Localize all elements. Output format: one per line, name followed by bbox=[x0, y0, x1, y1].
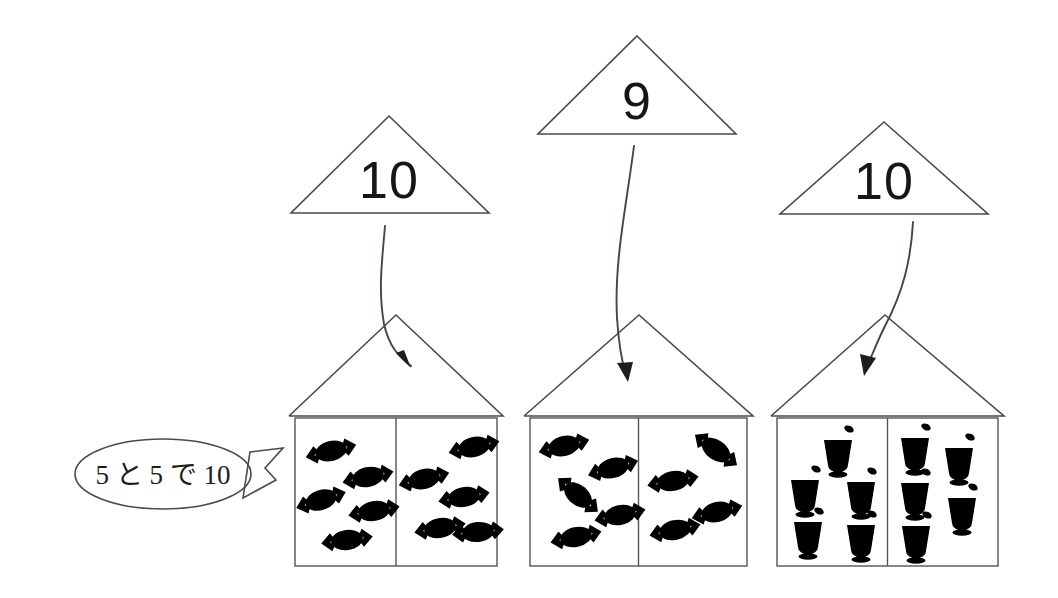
group-1-left-item-1 bbox=[303, 435, 358, 467]
group-1-house-roof bbox=[289, 315, 503, 416]
group-3-right-item-2 bbox=[945, 432, 976, 486]
group-3: 10 #group-3 .c-body { fill: #e6eae6; str… bbox=[771, 122, 1004, 566]
candy-wrapped-dotted-icon bbox=[303, 435, 358, 467]
candy-wrapped-dotted-icon bbox=[340, 462, 395, 492]
group-2-right-item-2 bbox=[646, 467, 701, 496]
group-1-right-item-1 bbox=[446, 431, 501, 462]
pudding-glass-icon bbox=[948, 482, 979, 536]
speech-bubble-text: 5 と 5 で 10 bbox=[96, 460, 231, 490]
group-3-total-label: 10 bbox=[854, 152, 914, 210]
group-1-arrow-line bbox=[381, 226, 411, 366]
group-1-total-label: 10 bbox=[359, 151, 419, 209]
worksheet-canvas: 10 #group-1 .c-body { fill: #e8ded0; str… bbox=[0, 0, 1058, 598]
group-1-left-item-4 bbox=[347, 497, 402, 526]
candy-striped-icon bbox=[646, 467, 701, 496]
group-3-left-item-1 bbox=[824, 424, 855, 478]
candy-wrapped-dotted-icon bbox=[320, 526, 374, 553]
group-1-left-item-3 bbox=[293, 482, 349, 517]
group-3-house-roof bbox=[771, 315, 1004, 416]
candy-striped-icon bbox=[548, 522, 603, 552]
speech-bubble-tail bbox=[243, 448, 283, 498]
group-2-left-item-4 bbox=[592, 500, 647, 530]
group-2-total-label: 9 bbox=[622, 72, 652, 130]
candy-wrapped-dotted-icon bbox=[347, 497, 402, 526]
group-2-left-item-5 bbox=[548, 522, 603, 552]
group-1-right-item-3 bbox=[437, 483, 492, 512]
group-1: 10 #group-1 .c-body { fill: #e8ded0; str… bbox=[289, 116, 505, 566]
pudding-glass-icon bbox=[824, 424, 855, 478]
candy-wrapped-dotted-icon bbox=[446, 431, 501, 462]
group-3-right-item-4 bbox=[948, 482, 979, 536]
group-1-right-item-2 bbox=[396, 463, 451, 495]
candy-striped-icon bbox=[585, 451, 640, 485]
candy-striped-icon bbox=[536, 430, 591, 462]
group-2-right-item-1 bbox=[689, 427, 743, 474]
group-2-house-roof bbox=[524, 315, 753, 416]
group-1-left-item-5 bbox=[320, 526, 374, 553]
pudding-glass-icon bbox=[945, 432, 976, 486]
candy-wrapped-dotted-icon bbox=[437, 483, 492, 512]
group-3-arrow-line bbox=[866, 222, 913, 368]
group-2-left-item-1 bbox=[536, 430, 591, 462]
pudding-glass-icon bbox=[901, 422, 932, 476]
group-3-arrow-head bbox=[860, 354, 876, 376]
group-1-left-item-2 bbox=[340, 462, 395, 492]
group-1-arrow-head bbox=[396, 350, 411, 368]
speech-bubble: 5 と 5 で 10 bbox=[75, 439, 283, 509]
candy-wrapped-dotted-icon bbox=[396, 463, 451, 495]
group-2-arrow-head bbox=[617, 362, 633, 382]
candy-wrapped-dotted-icon bbox=[293, 482, 349, 517]
group-2: 9 #group-2 .c-body { fill: #f2f2ec; stro… bbox=[524, 36, 753, 566]
group-2-arrow-line bbox=[617, 146, 634, 376]
candy-striped-icon bbox=[689, 427, 743, 474]
candy-striped-icon bbox=[592, 500, 647, 530]
worksheet-drawing: 10 #group-1 .c-body { fill: #e8ded0; str… bbox=[0, 0, 1058, 598]
group-3-right-item-1 bbox=[901, 422, 932, 476]
group-2-left-item-2 bbox=[585, 451, 640, 485]
